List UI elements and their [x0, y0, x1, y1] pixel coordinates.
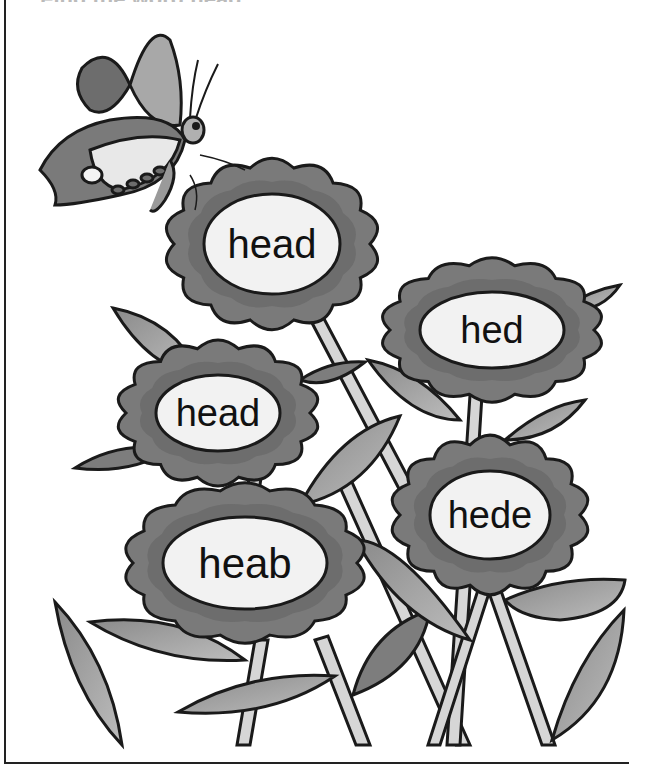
flower-5: heab: [126, 483, 364, 644]
flower-word[interactable]: hede: [448, 494, 533, 536]
flower-scene: headhedheadhedeheab: [0, 0, 648, 775]
butterfly-wing-dot: [112, 186, 124, 194]
butterfly-antenna: [196, 64, 218, 118]
leaf: [178, 675, 335, 713]
leaf: [505, 400, 585, 440]
flower-word[interactable]: heab: [198, 540, 291, 587]
butterfly-wing-dot: [127, 180, 139, 188]
butterfly-head: [182, 117, 204, 143]
leaf: [552, 610, 624, 740]
flower-4: hede: [392, 435, 588, 595]
butterfly-antenna: [190, 60, 198, 118]
butterfly-wing-spot: [82, 167, 102, 183]
flower-3: head: [118, 340, 317, 486]
flower-2: hed: [383, 258, 602, 403]
flower-1: head: [166, 158, 377, 330]
flower-word[interactable]: head: [176, 392, 261, 434]
butterfly-back-wing: [78, 57, 131, 112]
butterfly-wing-dot: [141, 174, 153, 182]
butterfly-eye: [194, 124, 199, 129]
flower-word[interactable]: hed: [460, 309, 523, 351]
flower-word[interactable]: head: [228, 222, 317, 266]
butterfly-wing-dot: [154, 167, 166, 175]
butterfly-top-wing: [130, 35, 181, 125]
